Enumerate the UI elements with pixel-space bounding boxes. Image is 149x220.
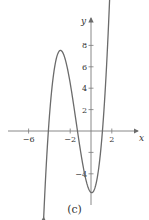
- tick-group: −6−228642−4: [23, 41, 115, 178]
- y-tick-label: 4: [82, 84, 87, 93]
- x-axis-label: x: [139, 133, 144, 143]
- cubic-curve: [44, 0, 112, 218]
- x-tick-label: 2: [109, 135, 114, 144]
- y-tick-label: 6: [82, 63, 87, 72]
- y-tick-label: 2: [82, 106, 87, 115]
- chart-canvas: −6−228642−4 x y: [0, 0, 149, 220]
- figure-caption: (c): [0, 203, 149, 216]
- y-tick-label: 8: [82, 41, 87, 50]
- y-axis-label: y: [80, 16, 87, 26]
- x-tick-label: −2: [64, 135, 76, 144]
- x-tick-label: −6: [23, 135, 35, 144]
